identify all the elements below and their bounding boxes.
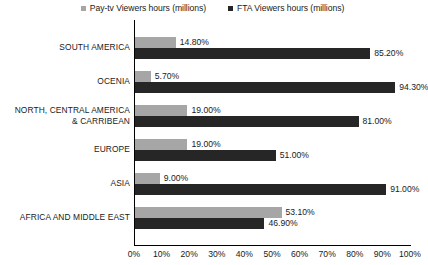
bar-row: 19.00% (135, 105, 411, 116)
legend-entry[interactable]: FTA Viewers hours (millions) (228, 3, 344, 13)
legend-label: FTA Viewers hours (millions) (237, 3, 344, 13)
bar-value-label: 94.30% (395, 82, 428, 93)
category-label-line: ASIA (111, 178, 131, 189)
bar-value-label: 85.20% (370, 48, 403, 59)
x-tick-label: 90% (374, 248, 391, 260)
bar-value-label: 81.00% (359, 116, 392, 127)
x-tick-label: 70% (319, 248, 336, 260)
x-tick-label: 80% (346, 248, 363, 260)
legend-swatch-icon (228, 6, 233, 11)
legend-label: Pay-tv Viewers hours (millions) (90, 3, 206, 13)
bar-pay-tv[interactable] (135, 71, 151, 82)
category-label: ASIA (0, 173, 130, 195)
category-axis: SOUTH AMERICAOCENIANORTH, CENTRAL AMERIC… (0, 20, 130, 245)
bar-row: 53.10% (135, 207, 411, 218)
bar-fta[interactable] (135, 184, 386, 195)
bar-value-label: 51.00% (276, 150, 309, 161)
bar-row: 14.80% (135, 37, 411, 48)
bar-fta[interactable] (135, 218, 264, 229)
x-tick-label: 0% (128, 248, 140, 260)
x-tick-label: 100% (399, 248, 421, 260)
category-label-line: NORTH, CENTRAL AMERICA (15, 105, 130, 116)
bar-pay-tv[interactable] (135, 173, 160, 184)
legend-swatch-icon (81, 6, 86, 11)
bar-group: 19.00%81.00% (135, 105, 411, 127)
category-label-line: EUROPE (94, 144, 130, 155)
bar-row: 51.00% (135, 150, 411, 161)
bar-value-label: 46.90% (264, 218, 297, 229)
bar-value-label: 19.00% (187, 105, 220, 116)
category-label: EUROPE (0, 139, 130, 161)
category-label: SOUTH AMERICA (0, 37, 130, 59)
category-label-line: & CARRIBEAN (72, 116, 130, 127)
x-tick-label: 10% (153, 248, 170, 260)
x-tick-label: 30% (208, 248, 225, 260)
bar-pay-tv[interactable] (135, 207, 282, 218)
bar-row: 81.00% (135, 116, 411, 127)
bar-group: 5.70%94.30% (135, 71, 411, 93)
chart-legend: Pay-tv Viewers hours (millions)FTA Viewe… (0, 1, 425, 15)
bar-group: 19.00%51.00% (135, 139, 411, 161)
category-label-line: AFRICA AND MIDDLE EAST (20, 212, 130, 223)
bar-group: 53.10%46.90% (135, 207, 411, 229)
bar-row: 94.30% (135, 82, 411, 93)
category-label: OCENIA (0, 71, 130, 93)
legend-entry[interactable]: Pay-tv Viewers hours (millions) (81, 3, 206, 13)
bar-fta[interactable] (135, 82, 395, 93)
x-axis-tick-labels: 0%10%20%30%40%50%60%70%80%90%100% (134, 248, 411, 262)
x-tick-label: 60% (291, 248, 308, 260)
bar-row: 5.70% (135, 71, 411, 82)
category-label-line: SOUTH AMERICA (59, 42, 130, 53)
bar-pay-tv[interactable] (135, 105, 187, 116)
bar-row: 85.20% (135, 48, 411, 59)
bar-fta[interactable] (135, 150, 276, 161)
x-tick-label: 50% (263, 248, 280, 260)
category-label: AFRICA AND MIDDLE EAST (0, 207, 130, 229)
bar-row: 91.00% (135, 184, 411, 195)
bar-row: 19.00% (135, 139, 411, 150)
bar-value-label: 53.10% (282, 207, 315, 218)
bar-value-label: 5.70% (151, 71, 179, 82)
bar-value-label: 91.00% (386, 184, 419, 195)
bar-row: 46.90% (135, 218, 411, 229)
plot-area: 14.80%85.20%5.70%94.30%19.00%81.00%19.00… (134, 20, 410, 245)
bar-value-label: 9.00% (160, 173, 188, 184)
category-label: NORTH, CENTRAL AMERICA& CARRIBEAN (0, 105, 130, 127)
bar-fta[interactable] (135, 48, 370, 59)
bar-value-label: 14.80% (176, 37, 209, 48)
bar-row: 9.00% (135, 173, 411, 184)
bar-group: 9.00%91.00% (135, 173, 411, 195)
category-label-line: OCENIA (97, 76, 130, 87)
bar-group: 14.80%85.20% (135, 37, 411, 59)
bar-fta[interactable] (135, 116, 359, 127)
x-axis-line (134, 245, 411, 246)
bar-pay-tv[interactable] (135, 139, 187, 150)
x-tick-label: 20% (181, 248, 198, 260)
bar-pay-tv[interactable] (135, 37, 176, 48)
x-tick-label: 40% (236, 248, 253, 260)
bar-value-label: 19.00% (187, 139, 220, 150)
